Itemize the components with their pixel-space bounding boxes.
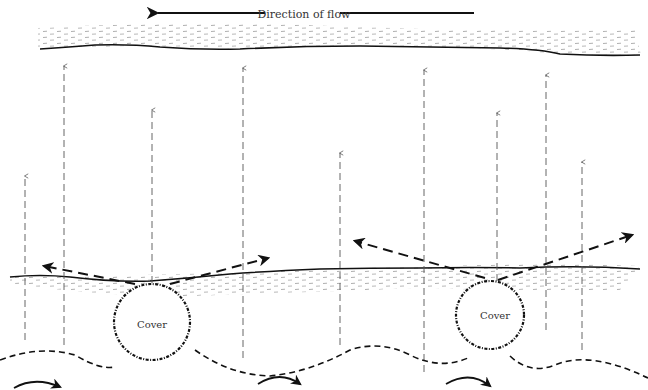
cover-label-left: Cover xyxy=(137,319,167,330)
far-bank xyxy=(38,23,641,55)
near-bank xyxy=(10,264,640,296)
cover-label-right: Cover xyxy=(480,310,510,321)
flow-direction-label: Direction of flow xyxy=(258,8,351,21)
channel-bed-line xyxy=(0,346,648,378)
eddy-arrow xyxy=(14,382,60,388)
eddy-arrow xyxy=(258,377,300,384)
eddy-arrows xyxy=(14,377,490,388)
eddy-arrow xyxy=(446,377,490,386)
flow-diagram xyxy=(0,0,648,390)
